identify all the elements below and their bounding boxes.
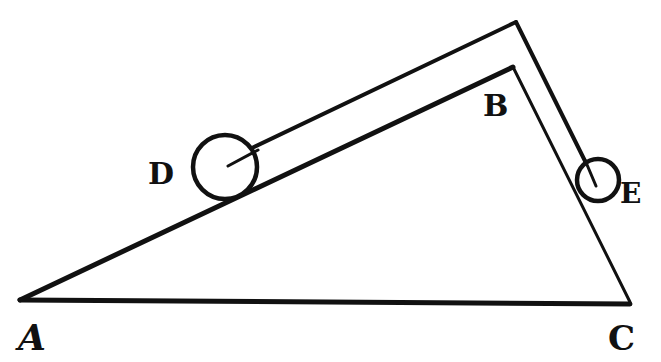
ball-e [577, 159, 619, 201]
label-c: C [608, 318, 635, 358]
ball-d [193, 135, 258, 199]
side-ab [20, 67, 513, 300]
triangle-abc [20, 67, 630, 304]
base-ac [20, 300, 630, 304]
cord [252, 22, 587, 165]
label-a: A [15, 316, 46, 358]
ball-d-circle [193, 135, 257, 199]
label-d: D [148, 156, 174, 191]
label-e: E [620, 177, 641, 210]
label-b: B [483, 88, 508, 123]
inclined-plane-diagram: D B E A C [0, 0, 661, 362]
ball-e-circle [577, 159, 619, 201]
